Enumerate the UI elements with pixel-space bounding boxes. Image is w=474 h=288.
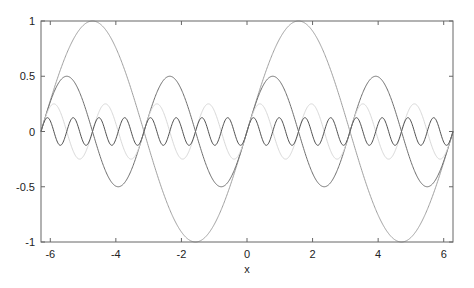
line-chart: -6-4-20246 -1-0.500.51 x [0, 0, 474, 288]
x-axis: -6-4-20246 [45, 21, 446, 260]
x-tick-label: 2 [310, 248, 316, 260]
y-tick-label: 0.5 [20, 70, 35, 82]
x-tick-label: 4 [375, 248, 381, 260]
series-line-4 [41, 118, 453, 146]
y-tick-label: 0 [29, 126, 35, 138]
x-axis-label: x [244, 263, 250, 275]
x-tick-label: -2 [177, 248, 187, 260]
y-tick-label: 1 [29, 15, 35, 27]
chart-series [41, 21, 453, 242]
x-tick-label: -4 [111, 248, 121, 260]
x-tick-label: -6 [45, 248, 55, 260]
y-tick-label: -1 [25, 236, 35, 248]
x-tick-label: 6 [441, 248, 447, 260]
x-tick-label: 0 [244, 248, 250, 260]
y-tick-label: -0.5 [16, 181, 35, 193]
